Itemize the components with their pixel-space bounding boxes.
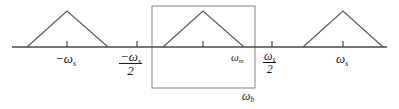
fraction-numerator: −ωs bbox=[119, 50, 142, 63]
label-omega-b: ωb bbox=[242, 90, 254, 102]
label-numerator-symbol: −ω bbox=[120, 49, 138, 64]
label-minus-omega-s-symbol: −ω bbox=[55, 51, 73, 66]
fraction-minus-omega-s-over-2: −ωs 2 bbox=[119, 50, 142, 77]
spectrum-diagram: −ωs −ωs 2 ωm ωs 2 ωb ωs bbox=[0, 0, 399, 109]
fraction-denominator: 2 bbox=[119, 64, 142, 77]
label-minus-omega-s: −ωs bbox=[55, 52, 76, 65]
fraction-numerator: ωs bbox=[263, 50, 276, 62]
label-numerator-subscript: s bbox=[138, 57, 141, 66]
label-numerator-subscript: s bbox=[272, 55, 275, 64]
fraction-omega-s-over-2: ωs 2 bbox=[263, 50, 276, 75]
label-omega-s-subscript: s bbox=[345, 59, 348, 68]
fraction-denominator: 2 bbox=[263, 63, 276, 75]
label-minus-omega-s-over-2: −ωs 2 bbox=[119, 50, 142, 77]
label-omega-m-subscript: m bbox=[239, 57, 244, 64]
label-omega-s-symbol: ω bbox=[336, 51, 345, 66]
label-omega-s: ωs bbox=[336, 52, 348, 65]
label-minus-omega-s-subscript: s bbox=[73, 59, 76, 68]
label-omega-m-symbol: ω bbox=[231, 51, 239, 63]
label-omega-b-subscript: b bbox=[250, 95, 254, 104]
label-omega-m: ωm bbox=[231, 52, 244, 63]
label-omega-s-over-2: ωs 2 bbox=[263, 50, 276, 75]
